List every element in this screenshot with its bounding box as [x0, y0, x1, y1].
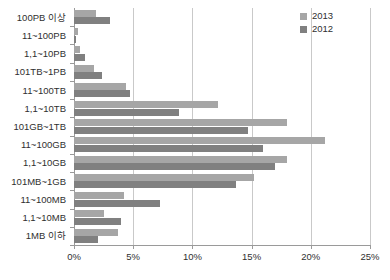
- bar-2013-11~100GB: [74, 137, 325, 144]
- bar-2013-1,1~10GB: [74, 156, 287, 163]
- bar-rows: [74, 8, 370, 245]
- x-tick-mark: [74, 245, 75, 249]
- bar-2013-11~100MB: [74, 192, 124, 199]
- x-tick-mark: [311, 245, 312, 249]
- bar-2013-11~100PB: [74, 28, 78, 35]
- bar-2012-1,1~10MB: [74, 218, 121, 225]
- bar-row: [74, 63, 370, 81]
- x-tick-label: 5%: [126, 251, 140, 262]
- x-tick-label: 20%: [301, 251, 320, 262]
- legend-label: 2013: [312, 11, 333, 21]
- y-axis-category-labels: 100PB 이상11~100PB1,1~10PB101TB~1PB11~100T…: [0, 8, 70, 245]
- bar-row: [74, 172, 370, 190]
- bar-2013-11~100TB: [74, 83, 126, 90]
- bar-2012-11~100GB: [74, 145, 263, 152]
- x-tick-mark: [133, 245, 134, 249]
- bar-row: [74, 44, 370, 62]
- bar-row: [74, 117, 370, 135]
- bar-2013-1,1~10MB: [74, 210, 104, 217]
- bar-row: [74, 154, 370, 172]
- bar-2012-101MB~1GB: [74, 181, 236, 188]
- category-label: 101MB~1GB: [11, 176, 66, 187]
- category-label: 1,1~10TB: [25, 103, 66, 114]
- bar-2012-11~100PB: [74, 36, 76, 43]
- bar-2013-1MB 이하: [74, 229, 118, 236]
- x-tick-mark: [252, 245, 253, 249]
- category-label: 11~100GB: [21, 139, 66, 150]
- category-label: 1,1~10GB: [23, 157, 66, 168]
- category-label: 101GB~1TB: [13, 121, 66, 132]
- bar-2012-11~100MB: [74, 200, 160, 207]
- category-label: 11~100PB: [22, 30, 66, 41]
- plot-area: [74, 8, 370, 245]
- x-tick-label: 10%: [183, 251, 202, 262]
- bar-2012-101TB~1PB: [74, 72, 102, 79]
- bar-2013-101TB~1PB: [74, 65, 94, 72]
- gridline-25pct: [370, 8, 371, 245]
- bar-2012-11~100TB: [74, 90, 130, 97]
- chart-legend: 20132012: [300, 11, 333, 34]
- x-tick-label: 0%: [67, 251, 81, 262]
- bar-row: [74, 209, 370, 227]
- category-label: 11~100MB: [20, 194, 66, 205]
- bar-row: [74, 227, 370, 245]
- bar-row: [74, 190, 370, 208]
- x-tick-mark: [370, 245, 371, 249]
- x-tick-label: 25%: [360, 251, 379, 262]
- bar-2012-101GB~1TB: [74, 127, 248, 134]
- category-label: 1MB 이하: [26, 230, 66, 241]
- bar-chart: 100PB 이상11~100PB1,1~10PB101TB~1PB11~100T…: [0, 0, 390, 280]
- bar-2013-101MB~1GB: [74, 174, 254, 181]
- legend-item-2013: 2013: [300, 11, 333, 21]
- bar-row: [74, 99, 370, 117]
- legend-swatch-icon: [300, 13, 307, 20]
- category-label: 1,1~10MB: [22, 212, 66, 223]
- bar-row: [74, 136, 370, 154]
- bar-2012-1MB 이하: [74, 236, 98, 243]
- bar-2013-101GB~1TB: [74, 119, 287, 126]
- bar-2013-1,1~10PB: [74, 46, 80, 53]
- legend-label: 2012: [312, 24, 333, 34]
- x-tick-label: 15%: [242, 251, 261, 262]
- bar-2013-100PB 이상: [74, 10, 96, 17]
- bar-2012-100PB 이상: [74, 17, 110, 24]
- bar-2012-1,1~10PB: [74, 54, 85, 61]
- legend-item-2012: 2012: [300, 24, 333, 34]
- x-tick-mark: [192, 245, 193, 249]
- bar-2013-1,1~10TB: [74, 101, 218, 108]
- bar-row: [74, 81, 370, 99]
- category-label: 11~100TB: [23, 85, 66, 96]
- legend-swatch-icon: [300, 26, 307, 33]
- bar-2012-1,1~10TB: [74, 109, 179, 116]
- category-label: 100PB 이상: [17, 12, 66, 23]
- category-label: 1,1~10PB: [24, 48, 66, 59]
- x-axis-line: [74, 245, 371, 246]
- category-label: 101TB~1PB: [15, 66, 67, 77]
- bar-2012-1,1~10GB: [74, 163, 275, 170]
